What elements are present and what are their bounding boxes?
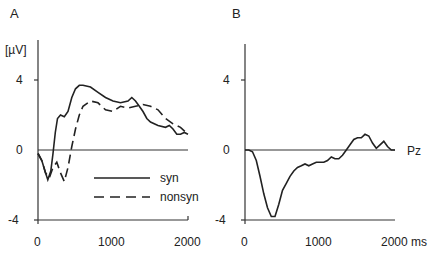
panel-a: A [µV] 4 0 -4 0 1000 2000 syn nonsyn <box>5 6 201 249</box>
panel-a-label: A <box>10 6 19 21</box>
legend-syn-label: syn <box>160 171 179 185</box>
panel-b: B 4 0 -4 0 1000 2000 ms Pz <box>215 6 427 249</box>
b-ytick-neg4: -4 <box>215 213 226 227</box>
electrode-label-pz: Pz <box>407 144 421 158</box>
b-ytick-4: 4 <box>223 73 230 87</box>
a-xtick-0: 0 <box>34 235 41 249</box>
legend: syn nonsyn <box>94 171 199 204</box>
series-syn-line <box>38 85 188 180</box>
a-ytick-4: 4 <box>16 73 23 87</box>
legend-nonsyn-label: nonsyn <box>160 190 199 204</box>
b-xtick-0: 0 <box>241 235 248 249</box>
b-ytick-0: 0 <box>223 143 230 157</box>
a-xtick-1000: 1000 <box>98 235 125 249</box>
y-axis-unit-label: [µV] <box>5 43 27 57</box>
panel-b-label: B <box>232 6 241 21</box>
b-xtick-2000ms: 2000 ms <box>381 235 427 249</box>
series-difference-line <box>245 134 395 216</box>
a-ytick-neg4: -4 <box>8 213 19 227</box>
series-nonsyn-line <box>38 101 188 182</box>
a-ytick-0: 0 <box>16 143 23 157</box>
a-xtick-2000: 2000 <box>174 235 201 249</box>
erp-figure: A [µV] 4 0 -4 0 1000 2000 syn nonsyn B 4… <box>0 0 435 256</box>
b-xtick-1000: 1000 <box>305 235 332 249</box>
